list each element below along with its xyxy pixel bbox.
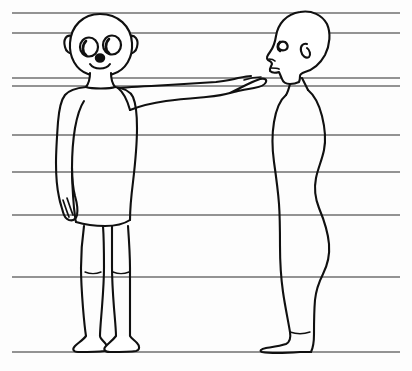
drawing-canvas: Two figures with horizontal reference li… — [0, 0, 412, 371]
figure-illustration-svg — [0, 0, 412, 371]
profile-lips — [271, 68, 279, 69]
canvas-background — [0, 0, 412, 371]
front-neck — [86, 73, 115, 89]
front-nose — [96, 54, 105, 62]
